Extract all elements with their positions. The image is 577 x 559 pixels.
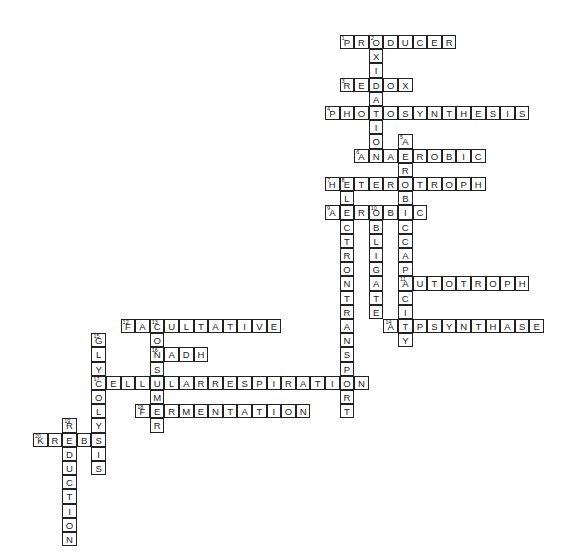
crossword-cell[interactable]: N <box>456 319 471 333</box>
crossword-cell[interactable]: N16 <box>150 347 165 361</box>
crossword-cell[interactable]: B <box>383 205 398 219</box>
crossword-cell[interactable]: Y <box>91 418 106 432</box>
crossword-cell[interactable]: T <box>427 276 442 290</box>
crossword-cell[interactable]: A <box>296 376 311 390</box>
crossword-cell[interactable]: E <box>62 433 77 447</box>
crossword-cell[interactable]: C <box>340 220 355 234</box>
crossword-cell[interactable]: C <box>398 291 413 305</box>
crossword-cell[interactable]: S <box>237 376 252 390</box>
crossword-cell[interactable]: A <box>500 319 515 333</box>
crossword-cell[interactable]: O <box>442 177 457 191</box>
crossword-cell[interactable]: O10 <box>369 205 384 219</box>
crossword-cell[interactable]: O <box>354 106 369 120</box>
crossword-cell[interactable]: H <box>486 319 501 333</box>
crossword-cell[interactable]: P4 <box>325 106 340 120</box>
crossword-cell[interactable]: P <box>340 362 355 376</box>
crossword-cell[interactable]: R <box>150 418 165 432</box>
crossword-cell[interactable]: U <box>62 461 77 475</box>
crossword-cell[interactable]: L <box>121 376 136 390</box>
crossword-cell[interactable]: E <box>194 404 209 418</box>
crossword-cell[interactable]: R <box>281 376 296 390</box>
crossword-cell[interactable]: R <box>340 248 355 262</box>
crossword-cell[interactable]: E <box>267 319 282 333</box>
crossword-cell[interactable]: A5 <box>398 134 413 148</box>
crossword-cell[interactable]: E <box>471 106 486 120</box>
crossword-cell[interactable]: S <box>427 319 442 333</box>
crossword-cell[interactable]: R <box>471 276 486 290</box>
crossword-cell[interactable]: R <box>48 433 63 447</box>
crossword-cell[interactable]: N <box>296 404 311 418</box>
crossword-cell[interactable]: N <box>208 404 223 418</box>
crossword-cell[interactable]: R <box>340 390 355 404</box>
crossword-cell[interactable]: R <box>340 305 355 319</box>
crossword-cell[interactable]: D <box>369 78 384 92</box>
crossword-cell[interactable]: R <box>413 149 428 163</box>
crossword-cell[interactable]: S <box>515 106 530 120</box>
crossword-cell[interactable]: N <box>354 376 369 390</box>
crossword-cell[interactable]: A <box>383 149 398 163</box>
crossword-cell[interactable]: A <box>208 319 223 333</box>
crossword-cell[interactable]: D <box>179 347 194 361</box>
crossword-cell[interactable]: I <box>237 319 252 333</box>
crossword-cell[interactable]: R <box>383 177 398 191</box>
crossword-cell[interactable]: I <box>369 248 384 262</box>
crossword-cell[interactable]: I <box>62 504 77 518</box>
crossword-cell[interactable]: I <box>369 120 384 134</box>
crossword-cell[interactable]: A <box>237 404 252 418</box>
crossword-cell[interactable]: O <box>369 134 384 148</box>
crossword-cell[interactable]: A9 <box>325 205 340 219</box>
crossword-cell[interactable]: H <box>515 276 530 290</box>
crossword-cell[interactable]: T <box>223 319 238 333</box>
crossword-cell[interactable]: O2 <box>369 35 384 49</box>
crossword-cell[interactable]: E <box>398 149 413 163</box>
crossword-cell[interactable]: T <box>442 106 457 120</box>
crossword-cell[interactable]: D <box>383 35 398 49</box>
crossword-cell[interactable]: M <box>150 390 165 404</box>
crossword-cell[interactable]: P <box>500 276 515 290</box>
crossword-cell[interactable]: B <box>369 220 384 234</box>
crossword-cell[interactable]: O <box>91 390 106 404</box>
crossword-cell[interactable]: E <box>529 319 544 333</box>
crossword-cell[interactable]: T <box>413 177 428 191</box>
crossword-cell[interactable]: L <box>91 404 106 418</box>
crossword-cell[interactable]: I <box>456 149 471 163</box>
crossword-cell[interactable]: I <box>267 376 282 390</box>
crossword-cell[interactable]: O <box>340 262 355 276</box>
crossword-cell[interactable]: H <box>471 177 486 191</box>
crossword-cell[interactable]: X <box>398 78 413 92</box>
crossword-cell[interactable]: E <box>354 78 369 92</box>
crossword-cell[interactable]: R <box>354 35 369 49</box>
crossword-cell[interactable]: X <box>369 49 384 63</box>
crossword-cell[interactable]: A <box>369 92 384 106</box>
crossword-cell[interactable]: L <box>340 191 355 205</box>
crossword-cell[interactable]: D <box>62 447 77 461</box>
crossword-cell[interactable]: U <box>164 319 179 333</box>
crossword-cell[interactable]: O <box>340 376 355 390</box>
crossword-cell[interactable]: P1 <box>340 35 355 49</box>
crossword-cell[interactable]: L <box>164 376 179 390</box>
crossword-cell[interactable]: S <box>515 319 530 333</box>
crossword-cell[interactable]: I <box>398 305 413 319</box>
crossword-cell[interactable]: P <box>398 262 413 276</box>
crossword-cell[interactable]: I <box>369 63 384 77</box>
crossword-cell[interactable]: R3 <box>340 78 355 92</box>
crossword-cell[interactable]: R <box>427 177 442 191</box>
crossword-cell[interactable]: A <box>369 276 384 290</box>
crossword-cell[interactable]: O <box>383 78 398 92</box>
crossword-cell[interactable]: R <box>442 35 457 49</box>
crossword-cell[interactable]: A <box>135 319 150 333</box>
crossword-cell[interactable]: O <box>442 276 457 290</box>
crossword-cell[interactable]: G15 <box>91 333 106 347</box>
crossword-cell[interactable]: N <box>340 333 355 347</box>
crossword-cell[interactable]: S <box>486 106 501 120</box>
crossword-cell[interactable]: E <box>340 205 355 219</box>
crossword-cell[interactable]: C <box>471 149 486 163</box>
crossword-cell[interactable]: A <box>398 248 413 262</box>
crossword-cell[interactable]: A14 <box>383 319 398 333</box>
crossword-cell[interactable]: S <box>91 433 106 447</box>
crossword-cell[interactable]: F18 <box>135 404 150 418</box>
crossword-cell[interactable]: U <box>150 376 165 390</box>
crossword-cell[interactable]: N <box>340 276 355 290</box>
crossword-cell[interactable]: S <box>398 106 413 120</box>
crossword-cell[interactable]: T <box>471 319 486 333</box>
